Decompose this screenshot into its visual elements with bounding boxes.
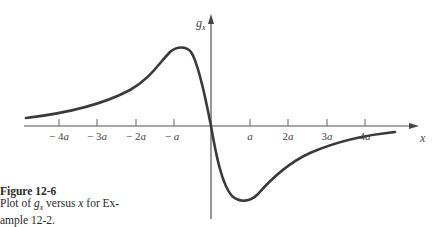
y-axis-arrow-icon: [208, 14, 214, 24]
y-axis-label: gx: [196, 16, 206, 32]
y-axis-label-sub: x: [202, 23, 206, 32]
caption-line-2: ample 12-2.: [0, 214, 150, 226]
tick-label-neg3a: − 3a: [87, 130, 107, 142]
x-axis-label-text: x: [420, 131, 425, 145]
x-axis-label: x: [420, 131, 425, 146]
x-axis-arrow-icon: [409, 123, 419, 129]
tick-label-2a: 2a: [283, 130, 294, 142]
figure-label: Figure 12-6: [0, 185, 150, 197]
tick-label-3a: 3a: [322, 130, 333, 142]
tick-label-a: a: [247, 130, 253, 142]
tick-label-neg4a: − 4a: [49, 130, 69, 142]
figure-caption: Figure 12-6 Plot of gx versus x for Ex- …: [0, 185, 150, 226]
tick-label-neg2a: − 2a: [126, 130, 146, 142]
caption-line-1: Plot of gx versus x for Ex-: [0, 197, 150, 214]
tick-label-nega: − a: [165, 130, 179, 142]
tick-label-4a: 4a: [360, 130, 371, 142]
